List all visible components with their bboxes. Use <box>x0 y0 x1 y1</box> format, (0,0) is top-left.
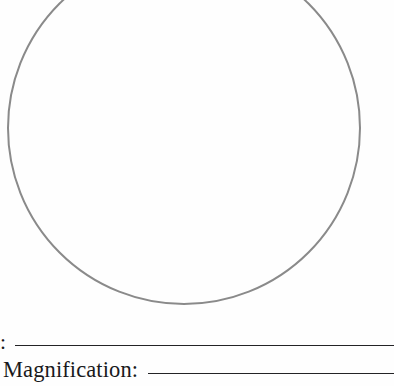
magnification-label: Magnification: <box>3 357 138 383</box>
magnification-input-rule[interactable] <box>148 373 394 374</box>
field-list: cimen: Magnification: <box>0 330 394 385</box>
drawing-circle-svg <box>0 0 394 386</box>
magnification-value <box>0 357 1 358</box>
field-row-specimen: cimen: <box>0 330 394 357</box>
drawing-circle-area <box>0 0 394 386</box>
specimen-input-rule[interactable] <box>15 345 394 346</box>
field-row-magnification: Magnification: <box>0 357 394 385</box>
worksheet-page: cimen: Magnification: <box>0 0 394 386</box>
specimen-label: cimen: <box>0 330 6 355</box>
drawing-circle <box>8 0 360 304</box>
